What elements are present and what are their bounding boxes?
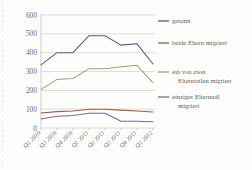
legend-label-4: migriert [178, 102, 199, 109]
legend-label-4: einziger Elternteil [172, 93, 220, 100]
series-line-gesamt [41, 36, 153, 65]
y-axis-tick-label: 200 [26, 86, 37, 95]
legend-label-3: ein von zwei [172, 68, 206, 75]
y-axis-tick-label: 600 [26, 11, 37, 20]
legend-label-2: beide Eltern migriert [172, 39, 227, 46]
y-axis-tick-label: 100 [26, 105, 37, 114]
y-axis-tick-label: 500 [26, 29, 37, 38]
line-chart: 6005004003002001000Q2 2010Q3 2010Q4 2010… [0, 0, 252, 170]
chart-container: 6005004003002001000Q2 2010Q3 2010Q4 2010… [0, 0, 252, 170]
y-axis-tick-label: 400 [26, 48, 37, 57]
x-axis-tick-label: Q1 2012 [134, 129, 154, 149]
y-axis-tick-label: 300 [26, 67, 37, 76]
series-line-beide-eltern-migriert [41, 109, 153, 113]
legend-label-1: gesamt [172, 17, 191, 24]
series-line-ein-von-zwei-elternteilen-migriert [41, 65, 153, 89]
series-line-einziger-elternteil-migriert [41, 113, 153, 121]
scan-artifact-edge [2, 0, 3, 170]
legend-label-3: Elternteilen migriert [178, 77, 232, 84]
